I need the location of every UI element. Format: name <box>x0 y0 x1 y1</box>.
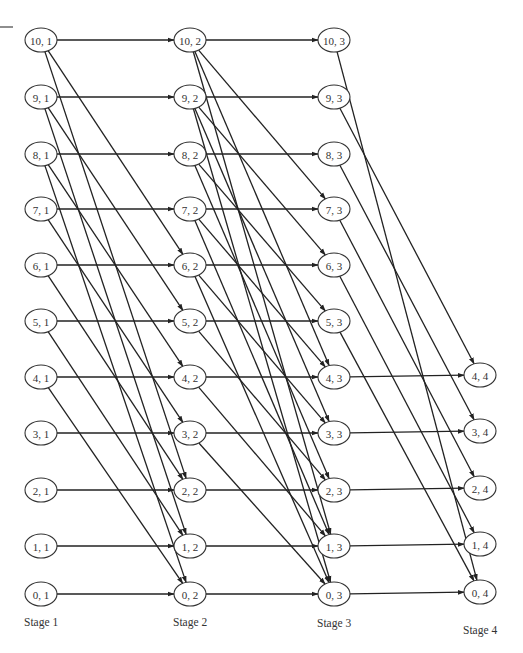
node-label: 3, 4 <box>472 426 489 438</box>
node-label: 5, 3 <box>326 316 343 328</box>
stage-label-3: Stage 3 <box>317 617 351 630</box>
node-2-2: 2, 2 <box>174 478 206 502</box>
node-label: 4, 3 <box>326 372 343 384</box>
node-7-3: 7, 3 <box>318 197 350 221</box>
node-label: 10, 1 <box>30 35 52 47</box>
node-label: 3, 2 <box>182 428 199 440</box>
node-label: 6, 3 <box>326 260 343 272</box>
node-6-1: 6, 1 <box>25 253 57 277</box>
node-label: 4, 4 <box>472 370 489 382</box>
node-label: 7, 3 <box>326 204 343 216</box>
node-3-4: 3, 4 <box>464 419 496 443</box>
edge-layer <box>45 40 477 594</box>
staged-network-diagram: 10, 19, 18, 17, 16, 15, 14, 13, 12, 11, … <box>0 0 523 653</box>
edge-8-2-to-5-3 <box>199 164 326 311</box>
node-label: 3, 1 <box>33 428 50 440</box>
edge-5-3-to-0-4 <box>340 332 474 581</box>
node-label: 9, 3 <box>326 92 343 104</box>
node-label: 4, 2 <box>182 372 199 384</box>
node-label: 5, 2 <box>182 316 199 328</box>
node-label: 5, 1 <box>33 316 50 328</box>
edge-4-1-to-0-2 <box>48 388 182 584</box>
node-1-2: 1, 2 <box>174 534 206 558</box>
node-label: 0, 2 <box>182 589 199 601</box>
node-label: 7, 1 <box>33 204 50 216</box>
node-10-2: 10, 2 <box>174 28 206 52</box>
edge-6-2-to-3-3 <box>199 275 326 423</box>
edge-7-3-to-2-4 <box>340 220 474 477</box>
node-5-1: 5, 1 <box>25 309 57 333</box>
edge-5-2-to-2-3 <box>199 331 326 480</box>
node-6-3: 6, 3 <box>318 253 350 277</box>
edge-2-3-to-2-4 <box>350 488 464 490</box>
node-label: 1, 2 <box>182 541 199 553</box>
node-9-2: 9, 2 <box>174 85 206 109</box>
node-label: 7, 2 <box>182 204 199 216</box>
edge-3-3-to-3-4 <box>350 431 464 433</box>
node-7-2: 7, 2 <box>174 197 206 221</box>
edge-9-2-to-0-3 <box>193 109 330 583</box>
node-label: 2, 1 <box>33 485 50 497</box>
stage-label-2: Stage 2 <box>173 616 207 629</box>
stage-label-layer: Stage 1Stage 2Stage 3Stage 4 <box>24 616 497 637</box>
edge-1-3-to-1-4 <box>350 544 464 546</box>
node-0-2: 0, 2 <box>174 582 206 606</box>
stage-label-4: Stage 4 <box>463 624 497 637</box>
node-6-2: 6, 2 <box>174 253 206 277</box>
node-2-4: 2, 4 <box>464 476 496 500</box>
node-label: 6, 2 <box>182 260 199 272</box>
edge-0-3-to-0-4 <box>350 592 464 594</box>
node-label: 6, 1 <box>33 260 50 272</box>
node-label: 0, 3 <box>326 589 343 601</box>
node-8-3: 8, 3 <box>318 142 350 166</box>
node-label: 3, 3 <box>326 428 343 440</box>
node-2-3: 2, 3 <box>318 478 350 502</box>
node-8-2: 8, 2 <box>174 142 206 166</box>
edge-8-3-to-3-4 <box>340 165 474 420</box>
node-4-3: 4, 3 <box>318 365 350 389</box>
node-1-3: 1, 3 <box>318 534 350 558</box>
node-10-3: 10, 3 <box>318 28 350 52</box>
edge-10-3-to-0-4 <box>337 52 477 580</box>
node-4-4: 4, 4 <box>464 363 496 387</box>
node-9-3: 9, 3 <box>318 85 350 109</box>
node-9-1: 9, 1 <box>25 85 57 109</box>
node-3-1: 3, 1 <box>25 421 57 445</box>
node-4-1: 4, 1 <box>25 365 57 389</box>
node-label: 8, 2 <box>182 149 199 161</box>
node-3-3: 3, 3 <box>318 421 350 445</box>
node-0-3: 0, 3 <box>318 582 350 606</box>
node-0-1: 0, 1 <box>25 582 57 606</box>
edge-10-1-to-6-2 <box>48 51 183 255</box>
node-label: 9, 2 <box>182 92 199 104</box>
node-1-1: 1, 1 <box>25 534 57 558</box>
node-5-3: 5, 3 <box>318 309 350 333</box>
edge-4-3-to-4-4 <box>350 375 464 377</box>
node-0-4: 0, 4 <box>464 580 496 604</box>
node-label: 1, 3 <box>326 541 343 553</box>
node-label: 0, 1 <box>33 589 50 601</box>
node-3-2: 3, 2 <box>174 421 206 445</box>
node-label: 8, 1 <box>33 149 50 161</box>
node-2-1: 2, 1 <box>25 478 57 502</box>
node-label: 8, 3 <box>326 149 343 161</box>
node-label: 9, 1 <box>33 92 50 104</box>
node-label: 2, 4 <box>472 483 489 495</box>
node-label: 1, 4 <box>472 539 489 551</box>
stage-label-1: Stage 1 <box>24 616 58 629</box>
node-label: 2, 2 <box>182 485 199 497</box>
node-4-2: 4, 2 <box>174 365 206 389</box>
edge-10-2-to-7-3 <box>199 50 326 199</box>
node-8-1: 8, 1 <box>25 142 57 166</box>
node-label: 10, 3 <box>323 35 346 47</box>
node-1-4: 1, 4 <box>464 532 496 556</box>
node-7-1: 7, 1 <box>25 197 57 221</box>
node-label: 1, 1 <box>33 541 50 553</box>
node-label: 10, 2 <box>179 35 201 47</box>
node-label: 4, 1 <box>33 372 50 384</box>
node-10-1: 10, 1 <box>25 28 57 52</box>
edge-9-3-to-4-4 <box>340 108 474 364</box>
node-label: 0, 4 <box>472 587 489 599</box>
node-label: 2, 3 <box>326 485 343 497</box>
edge-9-2-to-6-3 <box>199 107 326 255</box>
